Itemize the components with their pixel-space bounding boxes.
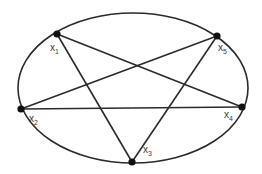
node-x5: [213, 32, 220, 39]
node-label-x2: x2: [29, 113, 38, 126]
node-x2: [17, 105, 24, 112]
labels-group: x1x2x3x4x5: [29, 42, 233, 157]
node-label-x3: x3: [143, 144, 152, 157]
edge-x1-x4: [57, 34, 242, 107]
node-x4: [238, 103, 245, 110]
edge-x2-x4: [21, 107, 242, 109]
node-x1: [53, 30, 60, 37]
node-label-x4: x4: [224, 109, 233, 122]
pentagram-diagram: x1x2x3x4x5: [0, 0, 262, 174]
node-label-x1: x1: [50, 42, 59, 55]
diagram-canvas: x1x2x3x4x5: [0, 0, 262, 174]
node-x3: [128, 158, 135, 165]
edge-x1-x3: [57, 34, 132, 162]
